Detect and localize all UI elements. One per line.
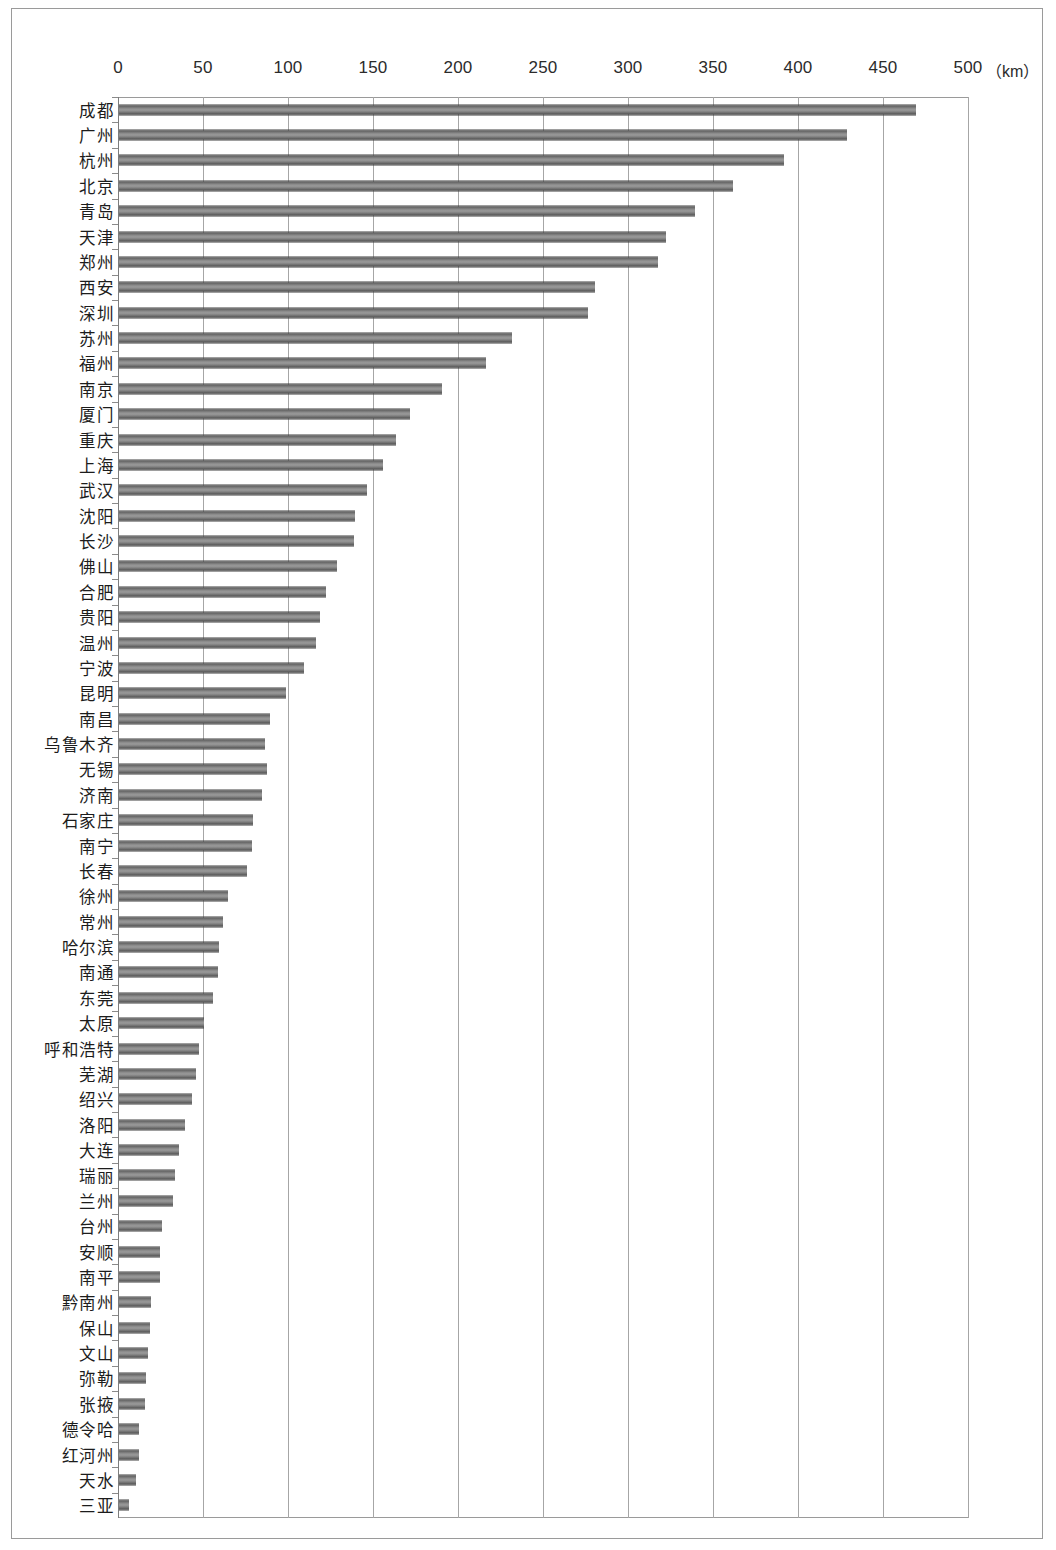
bar-row: 瑞丽 <box>0 1163 1056 1188</box>
bar-德令哈 <box>119 1424 139 1435</box>
bar-row: 保山 <box>0 1315 1056 1340</box>
bar-深圳 <box>119 307 588 318</box>
category-label-厦门: 厦门 <box>79 402 114 426</box>
bar-南宁 <box>119 840 252 851</box>
bar-绍兴 <box>119 1094 192 1105</box>
bar-row: 绍兴 <box>0 1087 1056 1112</box>
bar-row: 乌鲁木齐 <box>0 731 1056 756</box>
bar-row: 张掖 <box>0 1391 1056 1416</box>
category-label-弥勒: 弥勒 <box>79 1366 114 1390</box>
bar-row: 南平 <box>0 1264 1056 1289</box>
category-label-张掖: 张掖 <box>79 1392 114 1416</box>
bar-chart: 050100150200250300350400450500（km） 成都广州杭… <box>0 0 1056 1550</box>
bar-row: 重庆 <box>0 427 1056 452</box>
y-axis-tick <box>112 1391 118 1392</box>
category-label-上海: 上海 <box>79 453 114 477</box>
bar-row: 太原 <box>0 1011 1056 1036</box>
y-axis-tick <box>112 1290 118 1291</box>
bar-青岛 <box>119 206 695 217</box>
bar-苏州 <box>119 333 512 344</box>
y-axis-tick <box>112 1112 118 1113</box>
bar-row: 温州 <box>0 630 1056 655</box>
bar-昆明 <box>119 688 286 699</box>
category-label-徐州: 徐州 <box>79 884 114 908</box>
bar-row: 兰州 <box>0 1188 1056 1213</box>
y-axis-tick <box>112 909 118 910</box>
category-label-武汉: 武汉 <box>79 478 114 502</box>
bar-哈尔滨 <box>119 942 219 953</box>
category-label-保山: 保山 <box>79 1316 114 1340</box>
y-axis-tick <box>112 1087 118 1088</box>
bar-天津 <box>119 231 666 242</box>
category-label-德令哈: 德令哈 <box>62 1417 115 1441</box>
bar-宁波 <box>119 662 304 673</box>
bar-南通 <box>119 967 218 978</box>
y-axis-tick <box>112 478 118 479</box>
bar-row: 德令哈 <box>0 1417 1056 1442</box>
category-label-贵阳: 贵阳 <box>79 605 114 629</box>
category-label-无锡: 无锡 <box>79 757 114 781</box>
bar-安顺 <box>119 1246 160 1257</box>
y-axis-tick <box>112 833 118 834</box>
bar-row: 无锡 <box>0 757 1056 782</box>
category-label-石家庄: 石家庄 <box>62 808 115 832</box>
y-axis-tick <box>112 1163 118 1164</box>
bar-row: 南宁 <box>0 833 1056 858</box>
bar-row: 沈阳 <box>0 503 1056 528</box>
bar-红河州 <box>119 1449 139 1460</box>
category-label-宁波: 宁波 <box>79 656 114 680</box>
y-axis-tick <box>112 1442 118 1443</box>
category-label-温州: 温州 <box>79 631 114 655</box>
bar-郑州 <box>119 256 658 267</box>
bar-row: 上海 <box>0 452 1056 477</box>
bar-文山 <box>119 1348 148 1359</box>
category-label-长沙: 长沙 <box>79 529 114 553</box>
y-axis-tick <box>112 452 118 453</box>
category-label-黔南州: 黔南州 <box>62 1290 115 1314</box>
category-label-南宁: 南宁 <box>79 834 114 858</box>
bar-三亚 <box>119 1500 129 1511</box>
y-axis-tick <box>112 960 118 961</box>
bar-row: 南昌 <box>0 706 1056 731</box>
bar-佛山 <box>119 561 337 572</box>
bar-row: 常州 <box>0 909 1056 934</box>
bar-row: 济南 <box>0 782 1056 807</box>
category-label-天水: 天水 <box>79 1468 114 1492</box>
bar-row: 贵阳 <box>0 605 1056 630</box>
category-label-西安: 西安 <box>79 275 114 299</box>
y-axis-tick <box>112 224 118 225</box>
category-label-乌鲁木齐: 乌鲁木齐 <box>44 732 114 756</box>
y-axis-tick <box>112 1061 118 1062</box>
bar-row: 北京 <box>0 173 1056 198</box>
category-label-北京: 北京 <box>79 174 114 198</box>
y-axis-tick <box>112 1214 118 1215</box>
y-axis-tick <box>112 706 118 707</box>
bar-row: 厦门 <box>0 402 1056 427</box>
category-label-兰州: 兰州 <box>79 1189 114 1213</box>
bar-row: 天津 <box>0 224 1056 249</box>
y-axis-tick <box>112 351 118 352</box>
category-label-哈尔滨: 哈尔滨 <box>62 935 115 959</box>
bar-row: 苏州 <box>0 325 1056 350</box>
bar-row: 昆明 <box>0 681 1056 706</box>
y-axis-tick <box>112 1264 118 1265</box>
y-axis-tick <box>112 858 118 859</box>
y-axis-tick <box>112 300 118 301</box>
bar-长沙 <box>119 536 354 547</box>
y-axis-tick <box>112 97 118 98</box>
bar-上海 <box>119 459 383 470</box>
bar-南昌 <box>119 713 270 724</box>
y-axis-tick <box>112 1239 118 1240</box>
y-axis-tick <box>112 579 118 580</box>
category-label-长春: 长春 <box>79 859 114 883</box>
category-label-东莞: 东莞 <box>79 986 114 1010</box>
y-axis-tick <box>112 148 118 149</box>
bar-长春 <box>119 865 247 876</box>
bar-芜湖 <box>119 1068 196 1079</box>
bar-乌鲁木齐 <box>119 739 265 750</box>
y-axis-tick <box>112 757 118 758</box>
bar-大连 <box>119 1145 179 1156</box>
bar-北京 <box>119 180 733 191</box>
bar-row: 哈尔滨 <box>0 934 1056 959</box>
bar-row: 南京 <box>0 376 1056 401</box>
